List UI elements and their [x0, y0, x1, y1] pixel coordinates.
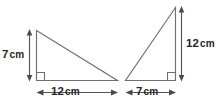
right-height-arrow-bottom-icon: [179, 75, 185, 82]
left-triangle-height-label: 7cm: [2, 49, 24, 61]
geometry-figure: 7cm 12cm 12cm 7cm: [0, 0, 218, 104]
figure-canvas: [0, 0, 218, 104]
right-height-arrow-top-icon: [179, 6, 185, 13]
right-triangle-base-unit: cm: [144, 86, 159, 97]
right-height-dimension: [179, 6, 185, 82]
left-base-arrow-left-icon: [37, 90, 44, 96]
left-base-arrow-right-icon: [111, 90, 118, 96]
right-triangle-right-angle-icon: [168, 73, 176, 81]
right-triangle-height-unit: cm: [200, 38, 215, 49]
left-height-arrow-top-icon: [27, 29, 33, 36]
right-triangle-height-value: 12: [186, 37, 199, 49]
left-triangle-base-label: 12cm: [51, 86, 80, 98]
right-triangle-base-label: 7cm: [136, 86, 158, 98]
left-triangle-outline: [37, 31, 118, 81]
left-triangle-height-value: 7: [2, 48, 9, 60]
right-base-arrow-left-icon: [126, 90, 133, 96]
right-base-arrow-right-icon: [169, 90, 176, 96]
left-height-arrow-bottom-icon: [27, 75, 33, 82]
left-triangle-right-angle-icon: [37, 73, 45, 81]
left-triangle-height-unit: cm: [10, 49, 25, 60]
right-triangle-base-value: 7: [136, 85, 143, 97]
left-height-dimension: [27, 29, 33, 82]
right-triangle-height-label: 12cm: [186, 38, 215, 50]
left-triangle-base-unit: cm: [65, 86, 80, 97]
right-triangle-outline: [126, 8, 176, 81]
left-triangle-base-value: 12: [51, 85, 64, 97]
right-triangle-group: [126, 8, 176, 81]
left-triangle-group: [37, 31, 118, 81]
